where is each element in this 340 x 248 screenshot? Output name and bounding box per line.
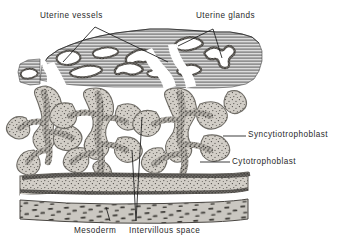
uterine-vessel-lumen bbox=[21, 69, 38, 79]
label-cytotrophoblast: Cytotrophoblast bbox=[232, 158, 296, 166]
placenta-villi-diagram bbox=[0, 0, 340, 248]
label-intervillous-space: Intervillous space bbox=[129, 227, 200, 235]
label-syncytiotrophoblast: Syncytiotrophoblast bbox=[248, 131, 328, 139]
uterine-gland-lumen bbox=[115, 63, 143, 75]
label-mesoderm: Mesoderm bbox=[74, 227, 116, 235]
figure-canvas: Uterine vessels Uterine glands Syncytiot… bbox=[0, 0, 340, 248]
uterine-vessel-lumen bbox=[57, 51, 81, 65]
label-uterine-vessels: Uterine vessels bbox=[40, 12, 103, 20]
label-uterine-glands: Uterine glands bbox=[196, 12, 255, 20]
chorionic-villus-tree-right bbox=[133, 88, 247, 173]
